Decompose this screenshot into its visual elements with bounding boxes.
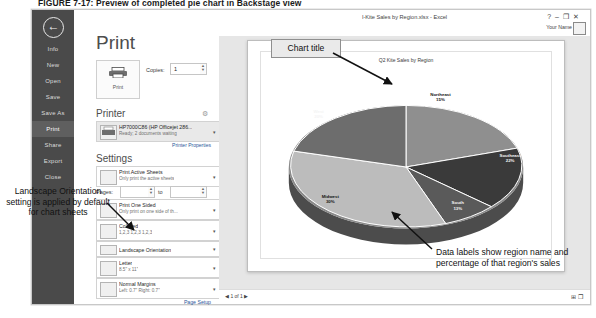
rail-item-info[interactable]: Info: [32, 41, 74, 57]
data-label-south: South13%: [441, 200, 475, 211]
chevron-down-icon[interactable]: ▾: [213, 246, 216, 252]
setting-print-range-primary: Print Active Sheets: [119, 169, 163, 175]
setting-collation-secondary: 1,2,3 1,2,3 1,2,3: [119, 230, 152, 235]
setting-collation[interactable]: Collated 1,2,3 1,2,3 1,2,3 ▾: [96, 220, 220, 241]
page-title: Print: [96, 32, 135, 54]
setting-margins[interactable]: Normal Margins Left: 0.7" Right: 0.7" ▾: [96, 278, 220, 299]
setting-collation-primary: Collated: [119, 223, 138, 229]
document-title: I-Kite Sales by Region.xlsx - Excel: [219, 14, 590, 20]
current-page[interactable]: 1: [230, 293, 233, 299]
figure-caption: FIGURE 7-17: Preview of completed pie ch…: [38, 0, 368, 8]
orientation-callout: Landscape Orientation setting is applied…: [2, 183, 114, 221]
setting-sides-secondary: Only print on one side of th...: [119, 209, 178, 214]
backstage-rail: ← Info New Open Save Save As Print Share…: [32, 10, 74, 304]
fit-page-icon[interactable]: ⊞: [571, 294, 578, 300]
rail-item-print[interactable]: Print: [32, 121, 74, 137]
minimize-button[interactable]: –: [555, 13, 563, 20]
collate-icon: [100, 224, 117, 239]
setting-orientation[interactable]: Landscape Orientation ▾: [96, 241, 220, 257]
zoom-page-icon[interactable]: ❐: [578, 294, 585, 300]
setting-sides-primary: Print One Sided: [119, 202, 156, 208]
chevron-down-icon[interactable]: ▾: [213, 265, 216, 271]
printer-device-icon: [100, 125, 117, 140]
rail-item-save-as[interactable]: Save As: [32, 105, 74, 121]
zoom-controls[interactable]: ⊞❐: [571, 293, 585, 300]
landscape-icon: [100, 245, 117, 255]
pages-to-stepper[interactable]: ▲▼: [200, 186, 207, 198]
rail-item-share[interactable]: Share: [32, 137, 74, 153]
setting-sides[interactable]: Print One Sided Only print on one side o…: [96, 199, 220, 220]
printer-status: Ready; 2 documents waiting: [119, 131, 177, 136]
setting-print-range[interactable]: Print Active Sheets Only print the activ…: [96, 166, 220, 187]
setting-paper-size[interactable]: Letter 8.5" x 11" ▾: [96, 257, 220, 278]
page-total: of 1: [235, 293, 243, 299]
settings-section-heading: Settings: [96, 153, 132, 164]
pages-from-input[interactable]: [120, 186, 150, 198]
printer-select[interactable]: HP7000C86 (HP Officejet 286... Ready; 2 …: [96, 121, 220, 142]
setting-print-range-secondary: Only print the active sheets: [119, 176, 174, 181]
next-page-icon[interactable]: ▶: [244, 293, 248, 299]
copies-stepper[interactable]: ▲▼: [200, 63, 207, 75]
rail-item-export[interactable]: Export: [32, 153, 74, 169]
pages-to-label: to: [158, 189, 163, 195]
account-name[interactable]: Your Name: [546, 24, 572, 30]
backstage-menu: Info New Open Save Save As Print Share E…: [32, 41, 74, 185]
chevron-down-icon[interactable]: ▾: [213, 228, 216, 234]
print-button-label: Print: [97, 84, 139, 90]
data-label-southeast: Southeast22%: [490, 153, 530, 164]
rail-item-new[interactable]: New: [32, 57, 74, 73]
back-arrow-icon[interactable]: ←: [43, 17, 64, 38]
setting-margins-primary: Normal Margins: [119, 281, 156, 287]
rail-item-save[interactable]: Save: [32, 89, 74, 105]
chevron-down-icon[interactable]: ▾: [213, 174, 216, 180]
chart-title: Q2 Kite Sales by Region: [261, 57, 551, 63]
chevron-down-icon[interactable]: ▾: [213, 129, 216, 135]
chart-title-callout: Chart title: [271, 39, 341, 58]
data-label-northeast: Northeast15%: [421, 92, 461, 103]
paper-icon: [100, 261, 117, 276]
setting-orientation-primary: Landscape Orientation: [119, 247, 171, 253]
setting-margins-secondary: Left: 0.7" Right: 0.7": [119, 288, 160, 293]
prev-page-icon[interactable]: ◀: [225, 293, 229, 299]
print-button[interactable]: Print: [96, 60, 140, 99]
page-setup-link[interactable]: Page Setup: [184, 299, 211, 305]
printer-properties-link[interactable]: Printer Properties: [172, 142, 211, 148]
chevron-down-icon[interactable]: ▾: [213, 207, 216, 213]
pages-from-stepper[interactable]: ▲▼: [148, 186, 155, 198]
avatar[interactable]: [573, 22, 586, 35]
print-settings-pane: Print Print Copies: 1 ▲▼ Printer ⚙ HP700…: [74, 10, 219, 304]
title-bar: I-Kite Sales by Region.xlsx - Excel ?–❐✕…: [219, 10, 590, 36]
rail-item-open[interactable]: Open: [32, 73, 74, 89]
chart-container[interactable]: Q2 Kite Sales by Region Nor: [260, 51, 552, 259]
setting-paper-size-primary: Letter: [119, 260, 132, 266]
page-navigator[interactable]: ◀ 1 of 1 ▶: [225, 293, 248, 299]
data-label-midwest: Midwest30%: [310, 194, 350, 205]
help-button[interactable]: ?: [547, 13, 555, 20]
preview-status-bar: ◀ 1 of 1 ▶ ⊞❐: [219, 289, 590, 304]
preview-page: Q2 Kite Sales by Region Nor: [247, 40, 565, 272]
window-controls[interactable]: ?–❐✕: [547, 13, 583, 21]
printer-options-icon[interactable]: ⚙: [202, 110, 209, 117]
printer-section-heading: Printer: [96, 108, 125, 119]
setting-paper-size-secondary: 8.5" x 11": [119, 267, 138, 272]
close-button[interactable]: ✕: [573, 13, 583, 20]
printer-icon: [108, 67, 128, 78]
data-label-west: West20%: [302, 109, 336, 120]
restore-button[interactable]: ❐: [563, 13, 573, 20]
printer-name: HP7000C86 (HP Officejet 286...: [119, 124, 192, 130]
margins-icon: [100, 282, 117, 297]
pages-to-input[interactable]: [170, 186, 202, 198]
pie-chart[interactable]: Northeast15% Southeast22% South13% Midwe…: [261, 78, 551, 248]
data-labels-callout: Data labels show region name and percent…: [432, 244, 586, 271]
chevron-down-icon[interactable]: ▾: [213, 286, 216, 292]
copies-label: Copies:: [146, 67, 165, 73]
